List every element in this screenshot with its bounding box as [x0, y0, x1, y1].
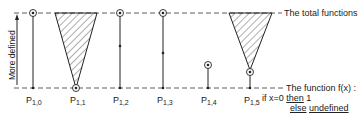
label-sub: 1,1	[76, 99, 86, 106]
then-keyword: then	[286, 93, 304, 103]
bottom-line-label-line3: else undefined	[290, 103, 349, 113]
top-line-label: The total functions	[284, 8, 358, 18]
label-p12: P1,2	[113, 95, 129, 108]
column-p10	[30, 10, 37, 90]
then-value: 1	[306, 93, 311, 103]
label-p14: P1,4	[201, 95, 217, 108]
condition-text: if x=0	[262, 93, 284, 103]
label-p11: P1,1	[70, 95, 86, 108]
y-axis-label: More defined	[7, 30, 17, 80]
column-p12	[117, 10, 124, 90]
column-p11	[55, 13, 97, 92]
column-p13	[160, 10, 167, 90]
label-sub: 1,5	[250, 99, 260, 106]
label-p15: P1,5	[244, 95, 260, 108]
label-sub: 1,2	[119, 99, 129, 106]
bottom-line-label-line2: if x=0 then 1	[262, 93, 311, 103]
column-p15	[229, 13, 272, 89]
bottom-line-label-line1: The function f(x) :	[286, 83, 356, 93]
label-p13: P1,3	[157, 95, 173, 108]
label-sub: 1,4	[207, 99, 217, 106]
undefined-text: undefined	[309, 103, 349, 113]
label-sub: 1,0	[32, 99, 42, 106]
column-p14	[205, 62, 212, 90]
else-keyword: else	[290, 103, 307, 113]
label-p10: P1,0	[26, 95, 42, 108]
label-sub: 1,3	[163, 99, 173, 106]
